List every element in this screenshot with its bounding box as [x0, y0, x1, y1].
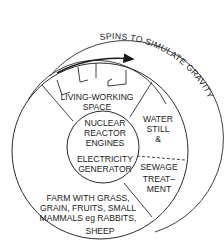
label-water-1: WATER — [143, 114, 173, 124]
label-farm-1: FARM WITH GRASS, — [46, 193, 129, 203]
label-farm-3: MAMMALS eg RABBITS, — [40, 213, 137, 223]
label-sewage-3: MENT — [147, 184, 172, 194]
label-core-3: ENGINES — [86, 138, 125, 148]
label-living-2: SPACE — [83, 102, 112, 112]
divider-sewage-dashed — [137, 156, 185, 160]
label-living-1: LIVING-WORKING — [60, 92, 133, 102]
label-core-4: ELECTRICITY — [77, 154, 133, 164]
label-water-3: & — [155, 134, 161, 144]
label-sewage-1: SEWAGE — [140, 162, 178, 172]
label-sewage-2: TREAT– — [143, 174, 176, 184]
label-water-2: STILL — [147, 124, 170, 134]
space-colony-diagram: SPINS TO SIMULATE GRAVITY LIVING-WORKING… — [0, 0, 224, 252]
label-core-2: REACTOR — [84, 128, 126, 138]
label-farm-2: GRAIN, FRUITS, SMALL — [40, 203, 136, 213]
divider-left — [42, 85, 73, 121]
gravity-caption: SPINS TO SIMULATE GRAVITY — [99, 31, 216, 100]
label-core-5: GENERATOR — [78, 164, 132, 174]
label-farm-4: SHEEP — [85, 226, 114, 236]
label-core-1: NUCLEAR — [84, 118, 125, 128]
